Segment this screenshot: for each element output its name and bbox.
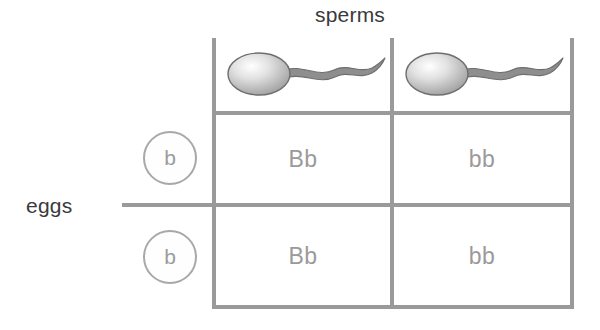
eggs-axis-label: eggs: [26, 194, 72, 218]
punnett-cell: Bb: [216, 207, 390, 305]
sperm-icon: [222, 44, 398, 106]
egg-circle-icon: b: [143, 230, 197, 284]
punnett-cell: bb: [394, 115, 570, 203]
punnett-cell: Bb: [216, 115, 390, 203]
egg-allele-label: b: [164, 245, 176, 269]
punnett-square-diagram: sperms eggs: [0, 0, 600, 330]
scan-bleed-artifact: [60, 306, 360, 328]
sperm-icon: [400, 44, 576, 106]
egg-allele-label: b: [164, 146, 176, 170]
sperms-axis-label: sperms: [315, 3, 385, 27]
punnett-cell: bb: [394, 207, 570, 305]
egg-circle-icon: b: [143, 131, 197, 185]
